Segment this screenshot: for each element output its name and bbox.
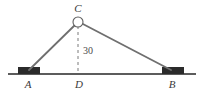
label-point-d: D	[74, 78, 83, 90]
label-point-a: A	[24, 78, 32, 90]
label-height-30: 30	[83, 45, 93, 56]
label-point-b: B	[169, 78, 176, 90]
geometry-figure: C A D B 30	[0, 0, 204, 92]
label-point-c: C	[74, 2, 82, 14]
segment-ac	[29, 24, 76, 70]
pulley-circle	[73, 17, 83, 27]
segment-cb	[81, 23, 171, 70]
support-block-b	[162, 67, 184, 74]
figure-canvas: C A D B 30	[0, 0, 204, 92]
